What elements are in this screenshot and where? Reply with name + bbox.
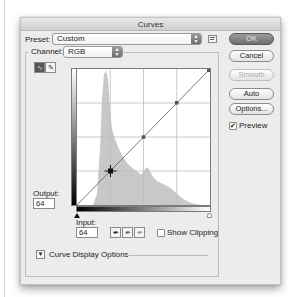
smooth-button[interactable]: Smooth: [229, 69, 274, 81]
options-button[interactable]: Options...: [229, 103, 274, 115]
preview-label: Preview: [239, 121, 267, 130]
checkmark-icon: ✔: [230, 122, 236, 129]
curve-point: [142, 135, 146, 139]
curve-canvas: [77, 69, 210, 205]
pencil-icon: ✎: [48, 64, 54, 71]
dialog-title: Curves: [21, 18, 280, 31]
white-point-eyedropper-icon: ✒: [137, 229, 143, 236]
pencil-tool[interactable]: ✎: [45, 62, 56, 73]
preset-value: Custom: [57, 34, 85, 43]
select-arrows-icon: ▲▼: [191, 34, 201, 44]
display-options-label[interactable]: Curve Display Options: [49, 250, 129, 259]
white-point-slider[interactable]: [207, 213, 212, 218]
display-options-toggle[interactable]: ▼: [36, 250, 45, 259]
curve-point-tool[interactable]: ∿: [34, 62, 45, 73]
curve-point: [175, 101, 179, 105]
cancel-button[interactable]: Cancel: [229, 50, 274, 62]
preset-select[interactable]: Custom ▲▼: [52, 33, 202, 45]
input-label: Input:: [76, 218, 96, 227]
preset-label: Preset:: [25, 35, 50, 44]
curve-point: [207, 69, 210, 72]
select-arrows-icon: ▲▼: [112, 47, 122, 57]
auto-button[interactable]: Auto: [229, 88, 274, 100]
curve-point-icon: ∿: [37, 64, 43, 71]
section-divider: [126, 255, 208, 256]
white-point-eyedropper[interactable]: ✒: [134, 227, 145, 238]
preset-options-icon[interactable]: [208, 35, 217, 43]
black-point-eyedropper-icon: ✒: [113, 229, 119, 236]
black-point-eyedropper[interactable]: ✒: [110, 227, 121, 238]
channel-select[interactable]: RGB ▲▼: [63, 46, 123, 58]
disclosure-triangle-icon: ▼: [38, 251, 44, 257]
curve-graph[interactable]: [76, 68, 211, 206]
show-clipping-label: Show Clipping: [167, 228, 218, 237]
ok-button[interactable]: OK: [229, 33, 274, 45]
gray-point-eyedropper-icon: ✒: [125, 229, 131, 236]
preview-checkbox[interactable]: ✔: [229, 122, 237, 130]
channel-value: RGB: [68, 47, 85, 56]
input-gradient-bar: [76, 206, 211, 212]
output-field[interactable]: 64: [33, 198, 55, 209]
show-clipping-checkbox[interactable]: [157, 229, 165, 237]
output-label: Output:: [33, 189, 59, 198]
gray-point-eyedropper[interactable]: ✒: [122, 227, 133, 238]
input-field[interactable]: 64: [76, 227, 98, 238]
channel-label: Channel:: [29, 47, 65, 57]
page-edge: [4, 0, 5, 297]
